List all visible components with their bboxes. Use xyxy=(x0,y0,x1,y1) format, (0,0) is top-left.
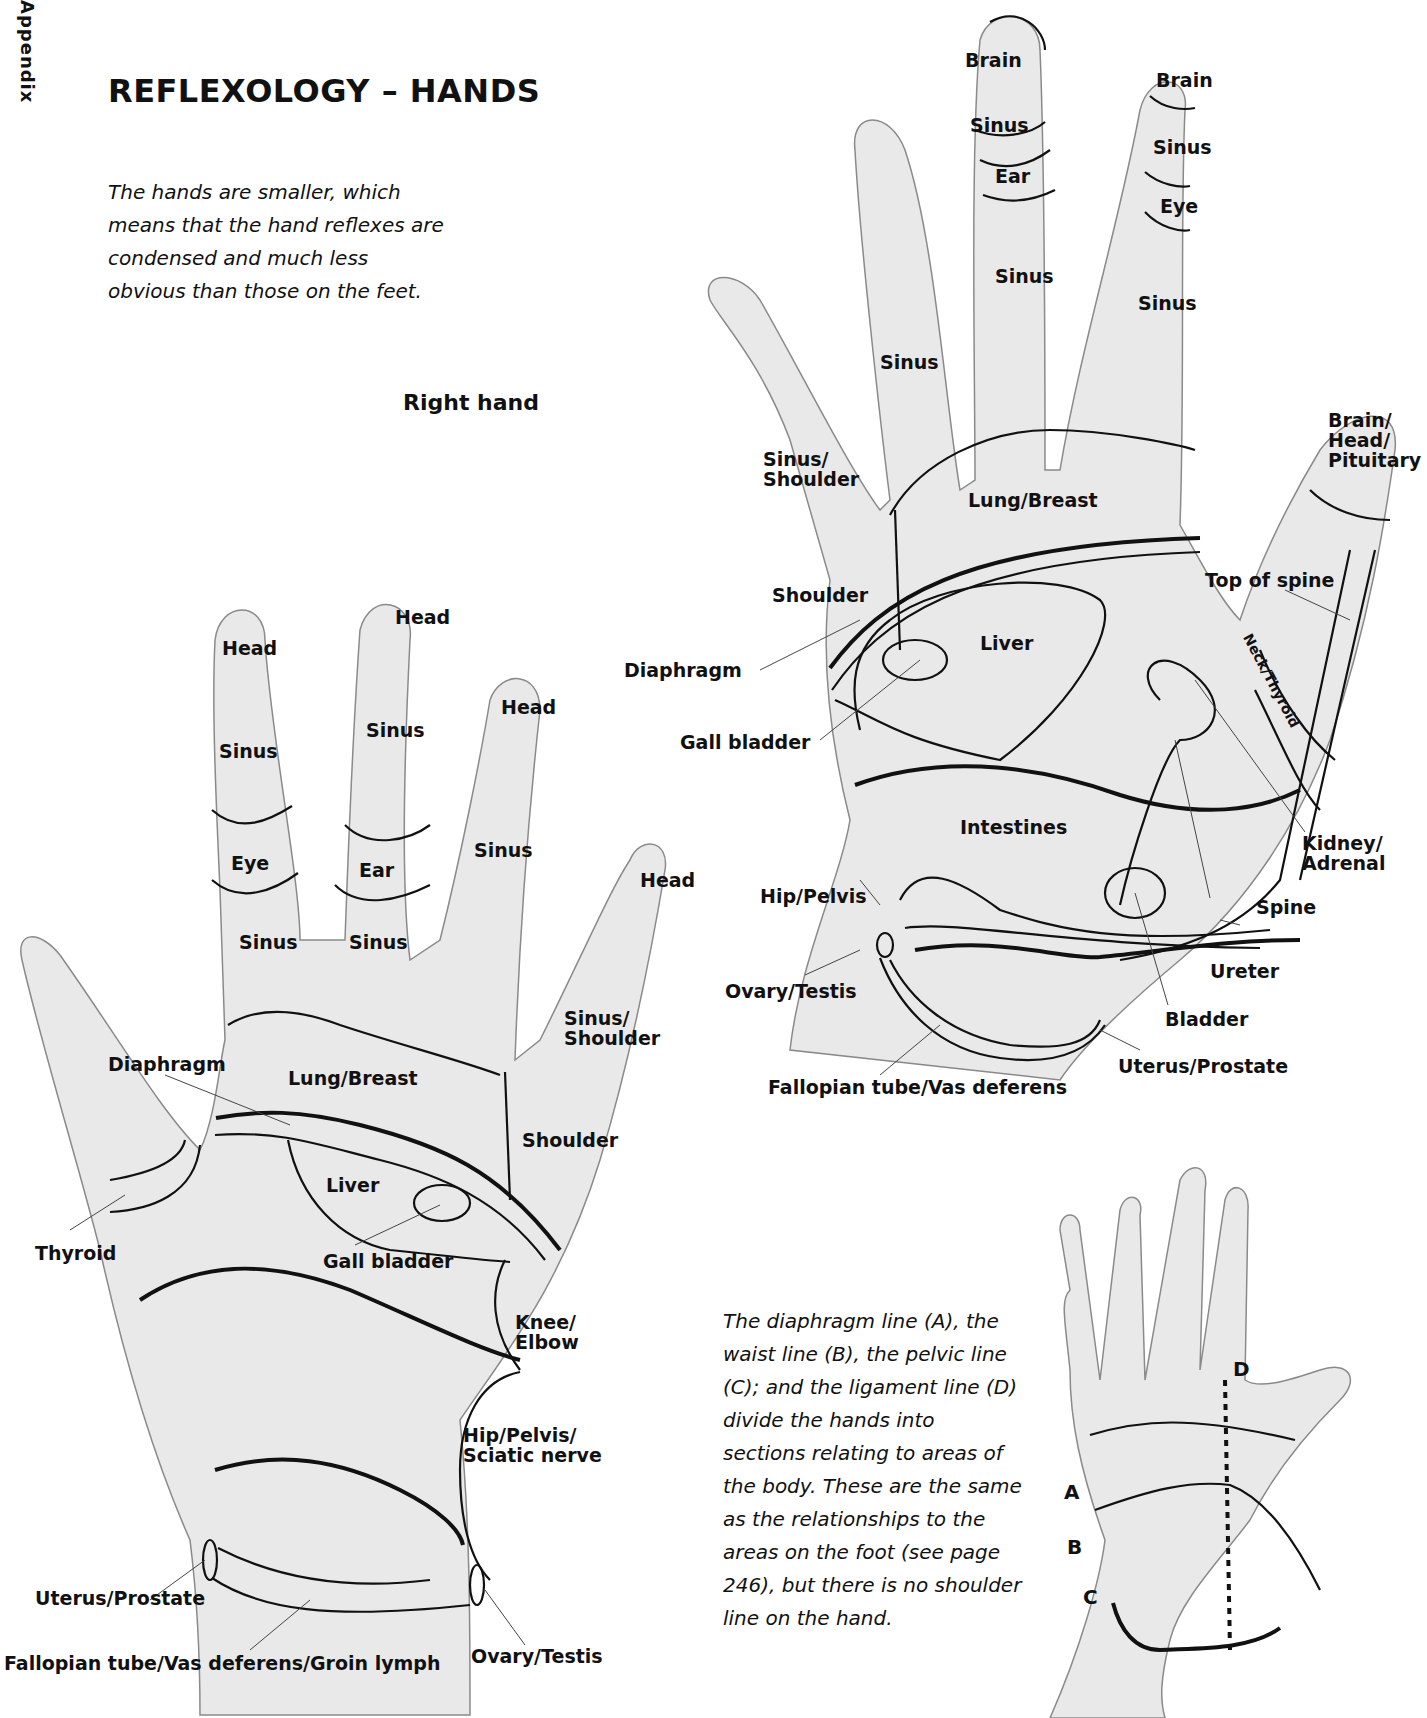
label-sinus-middle-top: Sinus xyxy=(970,115,1029,135)
label-hip-pelvis: Hip/Pelvis xyxy=(760,886,867,906)
label-eye-index: Eye xyxy=(231,853,269,873)
label-top-of-spine: Top of spine xyxy=(1205,570,1334,590)
lines-caption: The diaphragm line (A), the waist line (… xyxy=(723,1305,1023,1635)
label-brain-ring: Brain xyxy=(1156,70,1213,90)
lines-diagram-drawing xyxy=(1050,1168,1350,1718)
line-label-d: D xyxy=(1233,1357,1250,1381)
label-kidney-adrenal: Kidney/ Adrenal xyxy=(1302,833,1402,873)
label-sinus-index: Sinus xyxy=(880,352,939,372)
label-lung-breast: Lung/Breast xyxy=(288,1068,418,1088)
label-lung-breast: Lung/Breast xyxy=(968,490,1098,510)
label-spine: Spine xyxy=(1256,897,1316,917)
label-sinus-ring-top: Sinus xyxy=(1153,137,1212,157)
label-intestines: Intestines xyxy=(960,817,1067,837)
label-sinus-index-top: Sinus xyxy=(219,741,278,761)
label-head-index: Head xyxy=(222,638,277,658)
line-label-b: B xyxy=(1067,1535,1082,1559)
label-sinus-index-base: Sinus xyxy=(239,932,298,952)
label-diaphragm: Diaphragm xyxy=(108,1054,226,1074)
label-ureter: Ureter xyxy=(1210,961,1279,981)
label-ovary-testis: Ovary/Testis xyxy=(471,1646,603,1666)
label-shoulder: Shoulder xyxy=(522,1130,618,1150)
label-shoulder: Shoulder xyxy=(772,585,868,605)
right-hand-drawing xyxy=(21,605,666,1715)
label-sinus-shoulder: Sinus/ Shoulder xyxy=(564,1008,674,1048)
label-liver: Liver xyxy=(980,633,1033,653)
label-diaphragm: Diaphragm xyxy=(624,660,742,680)
label-sinus-ring: Sinus xyxy=(474,840,533,860)
label-fallopian-tube: Fallopian tube/Vas deferens xyxy=(768,1077,1067,1097)
label-sinus-middle-base: Sinus xyxy=(349,932,408,952)
label-sinus-middle-top: Sinus xyxy=(366,720,425,740)
label-brain-middle: Brain xyxy=(965,50,1022,70)
label-uterus-prostate: Uterus/Prostate xyxy=(35,1588,205,1608)
hand-illustrations xyxy=(0,0,1427,1718)
label-bladder: Bladder xyxy=(1165,1009,1248,1029)
line-label-a: A xyxy=(1064,1480,1079,1504)
label-gall-bladder: Gall bladder xyxy=(680,732,810,752)
label-ovary-testis: Ovary/Testis xyxy=(725,981,857,1001)
label-uterus-prostate: Uterus/Prostate xyxy=(1118,1056,1288,1076)
label-thyroid: Thyroid xyxy=(35,1243,116,1263)
label-sinus-shoulder: Sinus/ Shoulder xyxy=(763,449,873,489)
label-brain-head-pituitary: Brain/ Head/ Pituitary xyxy=(1328,410,1427,470)
label-fallopian-groin: Fallopian tube/Vas deferens/Groin lymph xyxy=(4,1653,440,1673)
label-hip-pelvis-sciatic: Hip/Pelvis/ Sciatic nerve xyxy=(463,1425,633,1465)
label-sinus-middle-base: Sinus xyxy=(995,266,1054,286)
line-label-c: C xyxy=(1083,1585,1098,1609)
label-knee-elbow: Knee/ Elbow xyxy=(515,1312,595,1352)
label-sinus-ring-base: Sinus xyxy=(1138,293,1197,313)
label-head-middle: Head xyxy=(395,607,450,627)
label-ear-middle: Ear xyxy=(359,860,394,880)
label-head-ring: Head xyxy=(501,697,556,717)
label-eye-ring: Eye xyxy=(1160,196,1198,216)
label-ear-middle: Ear xyxy=(995,166,1030,186)
label-head-little: Head xyxy=(640,870,695,890)
label-liver: Liver xyxy=(326,1175,379,1195)
label-gall-bladder: Gall bladder xyxy=(323,1251,453,1271)
left-hand-drawing xyxy=(708,16,1395,1080)
